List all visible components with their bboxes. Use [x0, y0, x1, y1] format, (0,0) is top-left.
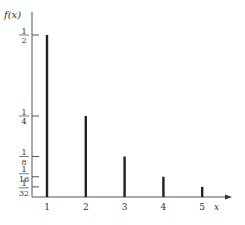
svg-text:1: 1: [21, 179, 26, 188]
y-tick-label: 14: [19, 108, 29, 127]
x-tick-label: 2: [83, 202, 89, 212]
svg-text:1: 1: [21, 148, 26, 157]
svg-text:1: 1: [21, 27, 26, 36]
y-tick-label: 18: [19, 148, 29, 167]
y-axis-label: f(x): [3, 9, 21, 20]
bar-x-1: [46, 35, 48, 197]
bar-x-5: [201, 187, 203, 197]
y-ticks: 121418116132: [19, 27, 39, 198]
bars: [46, 35, 204, 197]
svg-text:4: 4: [21, 117, 26, 126]
y-tick-label: 12: [19, 27, 29, 46]
axes: [32, 12, 232, 200]
x-tick-label: 4: [161, 202, 167, 212]
bar-x-2: [85, 116, 87, 197]
bar-x-4: [162, 177, 164, 197]
x-axis-arrow-icon: [225, 195, 232, 200]
x-tick-label: 1: [44, 202, 50, 212]
bar-x-3: [123, 157, 125, 198]
x-axis-label: x: [214, 202, 219, 212]
x-tick-label: 3: [122, 202, 128, 212]
x-ticks: 12345: [44, 202, 205, 212]
chart-canvas: f(x) x 121418116132 12345: [0, 0, 245, 225]
svg-text:1: 1: [21, 108, 26, 117]
svg-text:2: 2: [21, 36, 26, 45]
svg-text:32: 32: [19, 189, 29, 198]
x-tick-label: 5: [199, 202, 205, 212]
probability-mass-chart: f(x) x 121418116132 12345: [0, 0, 245, 225]
svg-text:1: 1: [21, 165, 26, 174]
